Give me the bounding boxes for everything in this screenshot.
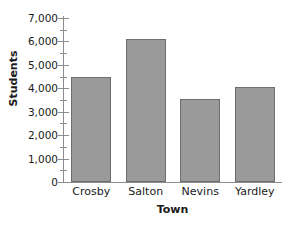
x-tick-label: Salton xyxy=(119,185,174,198)
x-tick-label: Yardley xyxy=(228,185,283,198)
bar-nevins xyxy=(180,99,220,182)
bar-crosby xyxy=(71,77,111,182)
bar-salton xyxy=(126,39,166,182)
x-tick-label: Crosby xyxy=(64,185,119,198)
x-axis-title: Town xyxy=(63,203,282,216)
bar-chart: Students 01,0002,0003,0004,0005,0006,000… xyxy=(0,0,290,226)
x-tick-label: Nevins xyxy=(173,185,228,198)
bar-yardley xyxy=(235,87,275,182)
